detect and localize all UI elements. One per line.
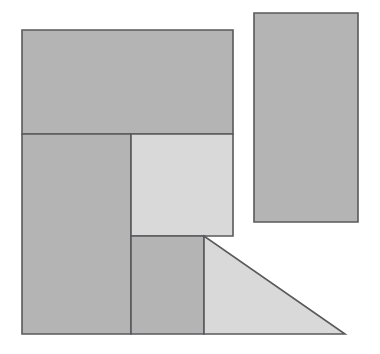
shapes-svg — [0, 0, 380, 354]
diagram-canvas — [0, 0, 380, 354]
lower-middle-rectangle — [131, 236, 204, 334]
center-light-square — [131, 134, 233, 236]
left-tall-rectangle — [22, 134, 131, 334]
detached-right-rectangle — [254, 13, 358, 222]
top-rectangle — [22, 30, 233, 134]
